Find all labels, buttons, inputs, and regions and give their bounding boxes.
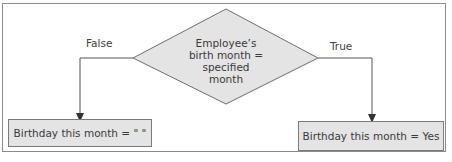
false-branch-label: False: [86, 37, 112, 49]
decision-line-2: birth month = specified: [170, 49, 282, 73]
true-result-box: Birthday this month = Yes: [298, 121, 444, 151]
true-branch-line: [318, 58, 372, 115]
decision-condition-text: Employee’s birth month = specified month: [170, 37, 282, 85]
false-result-box: Birthday this month = " ": [8, 119, 152, 147]
false-result-text: Birthday this month = " ": [14, 127, 147, 139]
decision-line-1: Employee’s: [170, 37, 282, 49]
true-branch-label: True: [330, 40, 352, 52]
true-result-text: Birthday this month = Yes: [303, 130, 440, 142]
decision-line-3: month: [170, 73, 282, 85]
false-branch-line: [80, 58, 133, 114]
